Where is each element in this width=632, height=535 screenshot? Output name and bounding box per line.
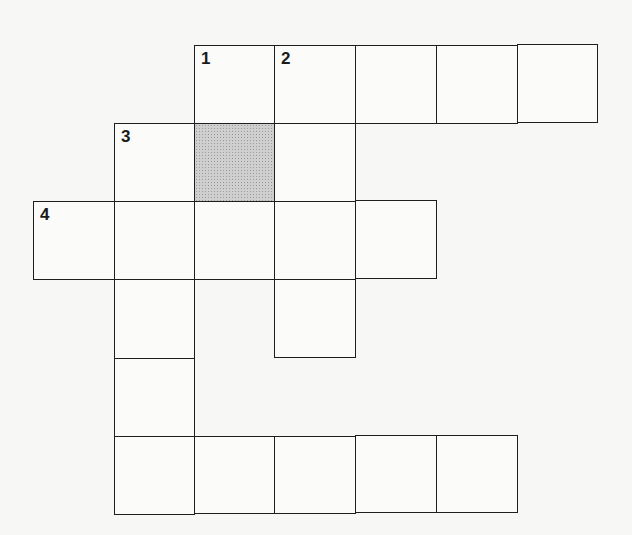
crossword-cell-r5c3[interactable] <box>274 436 356 514</box>
crossword-cell-r5c1[interactable] <box>114 436 195 515</box>
clue-number: 3 <box>121 128 130 145</box>
crossword-cell-r1c3[interactable] <box>274 123 356 202</box>
crossword-cell-r0c2[interactable]: 1 <box>194 45 275 124</box>
crossword-cell-r0c3[interactable]: 2 <box>274 45 356 124</box>
crossword-cell-r2c4[interactable] <box>355 200 437 279</box>
crossword-cell-r2c1[interactable] <box>114 201 195 280</box>
crossword-cell-r1c1[interactable]: 3 <box>114 123 195 202</box>
crossword-cell-r5c5[interactable] <box>436 435 518 513</box>
crossword-cell-r5c2[interactable] <box>194 436 275 514</box>
crossword-cell-r0c6[interactable] <box>517 44 598 123</box>
clue-number: 4 <box>40 206 49 223</box>
crossword-cell-r2c2[interactable] <box>194 201 275 280</box>
crossword-cell-r5c4[interactable] <box>355 435 437 513</box>
crossword-cell-r3c3[interactable] <box>274 279 356 358</box>
crossword-cell-r3c1[interactable] <box>114 279 195 359</box>
crossword-cell-r2c0[interactable]: 4 <box>33 201 115 280</box>
clue-number: 1 <box>201 50 210 67</box>
shaded-cell-r1c2 <box>194 123 275 202</box>
crossword-grid: 1 2 3 4 <box>0 0 632 535</box>
crossword-cell-r4c1[interactable] <box>114 358 195 437</box>
crossword-cell-r0c5[interactable] <box>436 45 518 124</box>
clue-number: 2 <box>281 50 290 67</box>
crossword-cell-r0c4[interactable] <box>355 45 437 124</box>
crossword-cell-r2c3[interactable] <box>274 201 356 280</box>
